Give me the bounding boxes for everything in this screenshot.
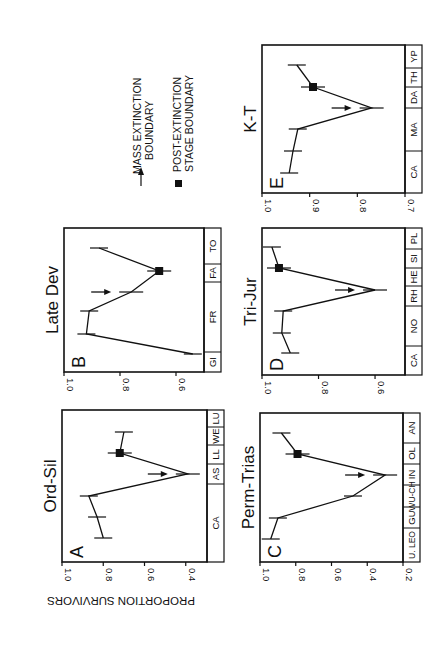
post-extinction-square-icon bbox=[116, 449, 124, 457]
tick-label: 0.8 bbox=[121, 378, 132, 391]
post-extinction-square-icon bbox=[155, 267, 163, 275]
panel-c: U. LEOGUWU-CHINOLAN1.00.80.60.40.2Perm-T… bbox=[239, 413, 420, 581]
stage-label: HE bbox=[408, 270, 419, 283]
panel-letter: B bbox=[69, 356, 89, 368]
mass-extinction-arrow-icon bbox=[332, 105, 352, 111]
mass-extinction-arrow-icon bbox=[345, 472, 365, 478]
legend-square-label-2: STAGE BOUNDARY bbox=[183, 75, 195, 172]
tick-label: 0.4 bbox=[368, 568, 379, 581]
tick-label: 0.6 bbox=[146, 568, 157, 581]
stage-label: AS bbox=[210, 468, 221, 481]
stage-label: TO bbox=[207, 239, 218, 252]
stage-label: FR bbox=[207, 311, 218, 324]
stage-label: AN bbox=[406, 421, 417, 434]
stage-label: LU bbox=[210, 412, 221, 424]
plot-frame bbox=[64, 228, 204, 372]
stage-label: OL bbox=[406, 447, 417, 460]
stage-label: CA bbox=[408, 165, 419, 179]
tick-label: 1.0 bbox=[261, 568, 272, 581]
series-line bbox=[271, 433, 385, 539]
tick-label: 0.6 bbox=[333, 568, 344, 581]
panel-letter: A bbox=[67, 546, 87, 558]
panel-title: Tri-Jur bbox=[241, 277, 260, 326]
tick-label: 1.0 bbox=[65, 378, 76, 391]
panels: CAASLLWELU1.00.80.60.4Ord-SilAGIFRFATO1.… bbox=[41, 45, 422, 581]
y-axis-label: PROPORTION SURVIVORS bbox=[47, 595, 195, 607]
mass-extinction-arrow-icon bbox=[335, 287, 355, 293]
tick-label: 0.8 bbox=[320, 381, 331, 394]
figure: MASS EXTINCTION BOUNDARY POST-EXTINCTION… bbox=[0, 0, 447, 650]
plot-frame bbox=[260, 413, 403, 562]
panel-title: Ord-Sil bbox=[41, 460, 60, 513]
panel-a: CAASLLWELU1.00.80.60.4Ord-SilA bbox=[41, 410, 224, 581]
panel-title: K-T bbox=[241, 105, 260, 132]
stage-label: IN bbox=[406, 470, 417, 480]
tick-label: 0.4 bbox=[187, 568, 198, 581]
stage-label: PL bbox=[408, 233, 419, 245]
series-line bbox=[272, 247, 375, 353]
stage-label: FA bbox=[207, 267, 218, 279]
tick-label: 1.0 bbox=[263, 199, 274, 212]
tick-label: 0.6 bbox=[376, 381, 387, 394]
stage-label: GI bbox=[207, 357, 218, 367]
tick-label: 0.8 bbox=[297, 568, 308, 581]
stage-label: WU-CH bbox=[407, 481, 417, 510]
stage-label: LL bbox=[210, 449, 221, 460]
panel-d: CANORHHESIPL1.00.80.6Tri-JurD bbox=[241, 228, 422, 394]
panel-letter: D bbox=[267, 358, 287, 371]
stage-label: MA bbox=[408, 122, 419, 137]
stage-label: CA bbox=[408, 353, 419, 367]
series-line bbox=[289, 65, 371, 173]
tick-label: 0.7 bbox=[406, 199, 417, 212]
panel-title: Late Dev bbox=[43, 265, 62, 334]
tick-label: 1.0 bbox=[263, 381, 274, 394]
stage-label: CA bbox=[210, 516, 221, 530]
legend-arrow-label-1: MASS EXTINCTION bbox=[131, 78, 143, 174]
legend: MASS EXTINCTION BOUNDARY POST-EXTINCTION… bbox=[131, 75, 195, 187]
stage-label: U. LEO bbox=[407, 531, 417, 559]
post-extinction-square-icon bbox=[275, 264, 283, 272]
mass-extinction-arrow-icon bbox=[148, 471, 168, 477]
tick-label: 1.0 bbox=[63, 568, 74, 581]
tick-label: 0.8 bbox=[358, 199, 369, 212]
tick-label: 0.6 bbox=[177, 378, 188, 391]
panel-e: CAMADATHYP1.00.90.80.7K-TE bbox=[241, 45, 422, 212]
panel-letter: C bbox=[265, 545, 285, 558]
post-extinction-square-icon bbox=[309, 83, 317, 91]
tick-label: 0.9 bbox=[311, 199, 322, 212]
post-extinction-square-icon bbox=[294, 450, 302, 458]
stage-label: TH bbox=[408, 71, 419, 84]
stage-label: WE bbox=[210, 428, 221, 443]
post-extinction-square-icon bbox=[175, 180, 182, 187]
stage-label: RH bbox=[408, 289, 419, 303]
panel-b: GIFRFATO1.00.80.6Late DevB bbox=[43, 228, 221, 391]
legend-square-label-1: POST-EXTINCTION bbox=[171, 77, 183, 172]
panel-letter: E bbox=[267, 177, 287, 189]
stage-label: NO bbox=[408, 319, 419, 333]
tick-label: 0.8 bbox=[104, 568, 115, 581]
stage-label: GU bbox=[406, 510, 417, 524]
legend-arrow-label-2: BOUNDARY bbox=[143, 101, 155, 160]
stage-label: DA bbox=[408, 90, 419, 104]
mass-extinction-arrow-icon bbox=[91, 289, 111, 295]
stage-label: SI bbox=[408, 254, 419, 263]
stage-label: YP bbox=[408, 50, 419, 63]
tick-label: 0.2 bbox=[404, 568, 415, 581]
series-line bbox=[89, 432, 188, 538]
series-line bbox=[86, 248, 192, 354]
chart-canvas: MASS EXTINCTION BOUNDARY POST-EXTINCTION… bbox=[0, 0, 447, 650]
panel-title: Perm-Trias bbox=[239, 446, 258, 529]
